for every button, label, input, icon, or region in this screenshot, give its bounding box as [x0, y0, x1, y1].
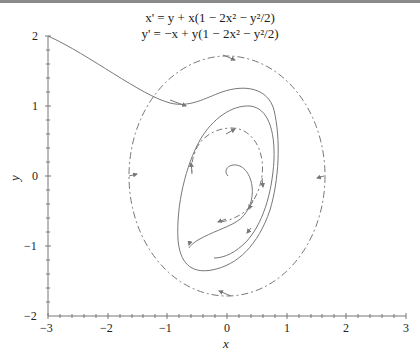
y-axis-label: y — [7, 175, 23, 181]
outer-solid-trajectory — [48, 36, 278, 271]
limit-cycle-dashed — [129, 56, 325, 296]
inner-solid-spiral — [189, 165, 252, 248]
x-axis-label: x — [223, 336, 229, 352]
x-tick-0: 0 — [224, 321, 230, 336]
y-tick-0: 0 — [32, 169, 38, 184]
y-tick-1: 1 — [32, 99, 38, 114]
x-tick-neg1: −1 — [159, 321, 172, 336]
x-tick-neg3: −3 — [40, 321, 53, 336]
y-tick-2: 2 — [32, 29, 38, 44]
x-tick-1: 1 — [284, 321, 290, 336]
x-tick-2: 2 — [343, 321, 349, 336]
y-tick-neg1: −1 — [24, 239, 37, 254]
y-tick-neg2: −2 — [24, 309, 37, 324]
phase-plot — [0, 0, 420, 357]
x-tick-neg2: −2 — [100, 321, 113, 336]
axes — [48, 36, 406, 316]
x-tick-3: 3 — [403, 321, 409, 336]
